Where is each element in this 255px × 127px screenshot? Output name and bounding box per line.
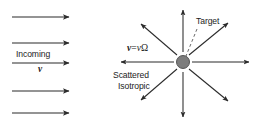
target-label: Target <box>196 17 219 26</box>
incoming-label: Incoming <box>16 50 50 59</box>
scattering-figure: Incoming v v=vΩ Target Scattered Isotrop… <box>0 0 255 127</box>
formula-omega-symbol: Ω <box>141 42 148 53</box>
isotropic-label: Isotropic <box>118 82 150 91</box>
scattered-ray <box>189 23 228 55</box>
target-dot <box>177 56 190 69</box>
scattered-label: Scattered <box>113 71 149 80</box>
velocity-vector-formula: v=vΩ <box>127 43 148 53</box>
incoming-velocity-label: v <box>38 65 42 75</box>
scattered-ray <box>189 69 228 101</box>
target-leader-line <box>186 29 197 56</box>
